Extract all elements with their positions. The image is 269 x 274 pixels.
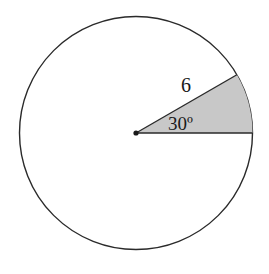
radius-label: 6: [181, 74, 191, 96]
circle-diagram: 6 30º: [0, 0, 269, 274]
center-point: [133, 130, 138, 135]
angle-label: 30º: [168, 113, 193, 134]
shaded-sector: [136, 75, 253, 133]
